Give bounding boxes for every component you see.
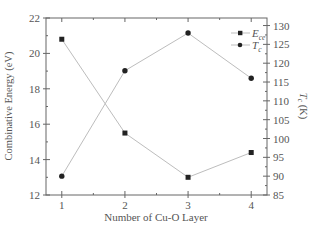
- circle-marker: [185, 30, 190, 35]
- plot-series: [59, 30, 254, 179]
- y-tick-label: 12: [29, 189, 40, 201]
- y2-tick-label: 110: [273, 95, 290, 107]
- y2-tick-label: 90: [273, 170, 285, 182]
- x-tick-label: 2: [122, 199, 128, 211]
- series-line-e_ce: [62, 39, 251, 177]
- y2-tick-label: 120: [273, 57, 290, 69]
- y2-tick-label: 125: [273, 38, 290, 50]
- y2-tick-label: 85: [273, 189, 285, 201]
- circle-marker: [59, 173, 64, 178]
- y2-tick-label: 100: [273, 133, 290, 145]
- square-marker: [186, 175, 191, 180]
- square-marker: [249, 150, 254, 155]
- svg-text:Tc (K): Tc (K): [296, 93, 310, 120]
- y2-tick-label: 130: [273, 20, 290, 32]
- dual-axis-line-chart: 1234121416182022859095100105110115120125…: [0, 0, 319, 231]
- y-tick-label: 16: [29, 118, 41, 130]
- x-tick-label: 3: [185, 199, 191, 211]
- x-tick-label: 1: [59, 199, 65, 211]
- y2-tick-label: 105: [273, 114, 290, 126]
- chart-legend: EceTc: [231, 27, 266, 54]
- legend-square-icon: [238, 31, 242, 35]
- y-tick-label: 22: [29, 12, 40, 24]
- y2-axis-label: Tc (K): [296, 93, 310, 120]
- circle-marker: [122, 68, 127, 73]
- circle-marker: [249, 76, 254, 81]
- y2-tick-label: 115: [273, 76, 290, 88]
- legend-circle-icon: [238, 43, 243, 48]
- y2-tick-label: 95: [273, 151, 285, 163]
- y-tick-label: 18: [29, 83, 41, 95]
- y-tick-label: 14: [29, 154, 41, 166]
- chart-container: 1234121416182022859095100105110115120125…: [0, 0, 319, 231]
- y-tick-label: 20: [29, 47, 41, 59]
- x-tick-label: 4: [248, 199, 254, 211]
- square-marker: [59, 37, 64, 42]
- x-axis-label: Number of Cu-O Layer: [104, 211, 208, 223]
- plot-axes: 1234121416182022859095100105110115120125…: [29, 12, 290, 211]
- square-marker: [122, 131, 127, 136]
- y-axis-label: Combinative Energy (eV): [3, 51, 15, 160]
